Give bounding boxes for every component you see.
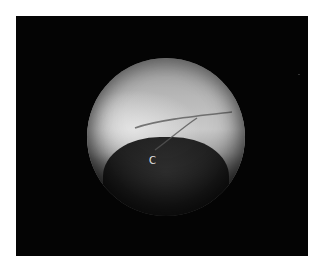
- artifact-speck: [298, 74, 300, 75]
- endoscopic-image-panel: C: [16, 16, 308, 256]
- tissue-fold-lines: [87, 58, 245, 216]
- figure-label-c: C: [149, 156, 156, 166]
- endoscopic-view-circle: C: [87, 58, 245, 216]
